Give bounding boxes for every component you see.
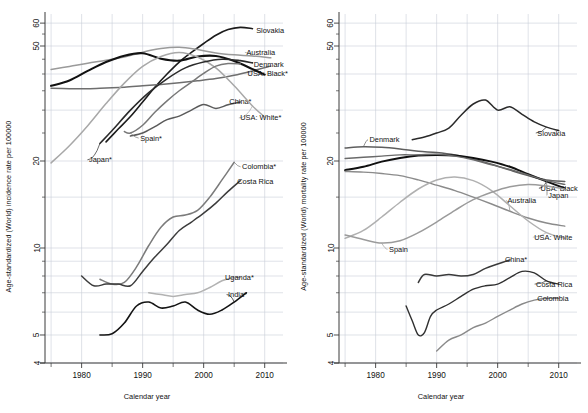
- series-label: Spain*: [140, 134, 162, 143]
- series-label: Colombia: [537, 294, 569, 303]
- y-tick-label: 20: [33, 156, 42, 166]
- series-label: Japan: [548, 191, 568, 200]
- label-leader-line: [363, 140, 368, 147]
- series-line: [130, 102, 240, 136]
- y-tick-label: 20: [327, 156, 336, 166]
- x-tick-label: 2000: [489, 371, 508, 380]
- series-label: Denmark: [254, 60, 284, 69]
- series-label: USA: White: [534, 233, 572, 242]
- series-label: Costa Rica: [536, 280, 573, 289]
- series-label: Slovakia: [537, 129, 566, 138]
- series-label: Spain: [389, 245, 408, 254]
- series-label: Australia: [246, 48, 276, 57]
- series-label: India*: [228, 290, 247, 299]
- x-tick-label: 2000: [195, 371, 214, 380]
- series-label: Uganda*: [225, 273, 254, 282]
- x-tick-label: 2010: [550, 371, 569, 380]
- series-label: USA: Black*: [248, 69, 288, 78]
- panel-incidence: Age-standardized (World) incidence rate …: [0, 0, 294, 413]
- y-tick-label: 50: [327, 41, 336, 51]
- y-tick-label: 4: [327, 360, 336, 365]
- series-label: Japan*: [89, 155, 112, 164]
- mortality-plot-area: 45102050601980199020002010SlovakiaDenmar…: [294, 0, 588, 413]
- series-label: China*: [505, 255, 527, 264]
- series-label: Colombia*: [242, 162, 276, 171]
- series-label: USA: White*: [240, 113, 281, 122]
- series-label: Australia: [507, 196, 537, 205]
- series-label: Costa Rica: [237, 177, 274, 186]
- series-line: [51, 52, 265, 162]
- label-leader-line: [547, 181, 548, 196]
- label-leader-line: [382, 243, 388, 249]
- series-line: [418, 260, 510, 283]
- series-line: [100, 162, 234, 284]
- y-tick-label: 60: [327, 18, 336, 28]
- series-line: [345, 155, 565, 188]
- series-line: [51, 66, 271, 89]
- y-tick-label: 10: [327, 243, 336, 253]
- panel-mortality: Age-standardized (World) mortality rate …: [294, 0, 588, 413]
- series-line: [345, 177, 565, 238]
- series-label: Denmark: [370, 135, 400, 144]
- y-tick-label: 5: [33, 332, 42, 337]
- incidence-plot-area: 45102050601980199020002010SlovakiaAustra…: [0, 0, 294, 413]
- x-tick-label: 1980: [367, 371, 386, 380]
- label-leader-line: [234, 162, 240, 167]
- series-line: [106, 27, 252, 141]
- x-axis-label-incidence: Calendar year: [0, 392, 294, 401]
- y-tick-label: 10: [33, 243, 42, 253]
- series-line: [345, 184, 565, 243]
- y-tick-label: 5: [327, 332, 336, 337]
- x-tick-label: 2010: [256, 371, 275, 380]
- y-tick-label: 4: [33, 360, 42, 365]
- y-tick-label: 60: [33, 18, 42, 28]
- y-tick-label: 50: [33, 41, 42, 51]
- series-line: [345, 154, 565, 184]
- series-label: Slovakia: [256, 26, 285, 35]
- figure-root: Age-standardized (World) incidence rate …: [0, 0, 588, 413]
- x-tick-label: 1990: [428, 371, 447, 380]
- x-tick-label: 1990: [134, 371, 153, 380]
- series-line: [82, 181, 241, 287]
- x-axis-label-mortality: Calendar year: [294, 392, 588, 401]
- x-tick-label: 1980: [73, 371, 92, 380]
